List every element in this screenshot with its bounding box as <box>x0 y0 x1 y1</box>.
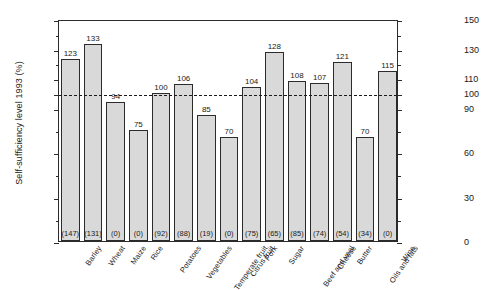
y-axis-label-right: 130 <box>464 45 484 55</box>
bar-group: 128(65) <box>263 21 286 241</box>
bar-group: 94(0) <box>104 21 127 241</box>
bar-group: 123(147) <box>59 21 82 241</box>
category-label: Maize <box>129 244 148 266</box>
bar-secondary-label: (147) <box>59 229 82 238</box>
bar-group: 75(0) <box>127 21 150 241</box>
y-axis-label-right: 90 <box>464 104 484 114</box>
bar-value-label: 121 <box>331 52 354 61</box>
bar-group: 85(19) <box>195 21 218 241</box>
y-axis-label-right: 100 <box>464 89 484 99</box>
y-axis-label-right: 110 <box>464 74 484 84</box>
bar-secondary-label: (0) <box>218 229 241 238</box>
bar-group: 133(131) <box>82 21 105 241</box>
bar-value-label: 128 <box>263 42 286 51</box>
bar-group: 121(54) <box>331 21 354 241</box>
y-axis-title: Self-sufficiency level 1993 (%) <box>14 0 28 26</box>
bar-secondary-label: (19) <box>195 229 218 238</box>
bar <box>106 102 125 241</box>
y-axis-minor-tick-right <box>397 36 401 37</box>
bar-value-label: 107 <box>308 73 331 82</box>
bar <box>356 137 375 241</box>
bar-value-label: 75 <box>127 120 150 129</box>
bar-secondary-label: (75) <box>240 229 263 238</box>
bar-value-label: 123 <box>59 49 82 58</box>
bar <box>129 130 148 241</box>
bar-group: 107(74) <box>308 21 331 241</box>
y-axis-tick-left <box>54 110 59 111</box>
bar-secondary-label: (34) <box>354 229 377 238</box>
bar-value-label: 100 <box>150 83 173 92</box>
bar-group: 106(88) <box>172 21 195 241</box>
bar <box>220 137 239 241</box>
bar-secondary-label: (0) <box>376 229 399 238</box>
y-axis-tick-left <box>54 51 59 52</box>
y-axis-minor-tick-right <box>397 65 401 66</box>
y-axis-tick-left <box>54 21 59 22</box>
bar <box>197 115 216 241</box>
category-label: Potatoes <box>178 244 203 274</box>
plot-area: 123(147)133(131)94(0)75(0)100(92)106(88)… <box>58 20 398 242</box>
bar <box>333 62 352 241</box>
bar-secondary-label: (85) <box>286 229 309 238</box>
category-label: Butter <box>355 244 374 266</box>
y-axis-tick-right <box>397 154 402 155</box>
category-label: Wheat <box>107 244 127 268</box>
y-axis-minor-tick-left <box>56 221 60 222</box>
bar-secondary-label: (88) <box>172 229 195 238</box>
category-label: Barley <box>84 244 104 267</box>
y-axis-title-text: Self-sufficiency level 1993 (%) <box>14 23 24 223</box>
bar-secondary-label: (74) <box>308 229 331 238</box>
reference-line-100 <box>59 95 397 96</box>
y-axis-tick-right <box>397 80 402 81</box>
category-label: Sugar <box>287 244 306 266</box>
bar <box>265 52 284 241</box>
bar <box>174 84 193 241</box>
bar <box>61 59 80 241</box>
y-axis-minor-tick-right <box>397 176 401 177</box>
bar-value-label: 106 <box>172 74 195 83</box>
bar-secondary-label: (131) <box>82 229 105 238</box>
y-axis-label-right: 60 <box>464 148 484 158</box>
y-axis-minor-tick-left <box>56 65 60 66</box>
bar <box>152 93 171 241</box>
y-axis-tick-right <box>397 110 402 111</box>
y-axis-minor-tick-left <box>56 36 60 37</box>
y-axis-tick-right <box>397 21 402 22</box>
category-labels: BarleyWheatMaizeRicePotatoesVegetablesTe… <box>58 244 398 290</box>
y-axis-tick-right <box>397 51 402 52</box>
bars-layer: 123(147)133(131)94(0)75(0)100(92)106(88)… <box>59 21 397 241</box>
bar-secondary-label: (92) <box>150 229 173 238</box>
bar-group: 70(0) <box>218 21 241 241</box>
bar-group: 108(85) <box>286 21 309 241</box>
y-axis-minor-tick-right <box>397 221 401 222</box>
y-axis-tick-right <box>397 95 402 96</box>
y-axis-tick-right <box>397 199 402 200</box>
bar-value-label: 133 <box>82 34 105 43</box>
category-label: Rice <box>149 244 165 262</box>
bar-group: 70(34) <box>354 21 377 241</box>
bar-group: 115(0) <box>376 21 399 241</box>
y-axis-label-right: 0 <box>464 237 484 247</box>
bar-group: 104(75) <box>240 21 263 241</box>
bar-secondary-label: (54) <box>331 229 354 238</box>
bar <box>378 71 397 241</box>
bar-secondary-label: (0) <box>104 229 127 238</box>
y-axis-minor-tick-right <box>397 132 401 133</box>
y-axis-tick-left <box>54 80 59 81</box>
y-axis-tick-left <box>54 199 59 200</box>
y-axis-minor-tick-left <box>56 176 60 177</box>
y-axis-tick-left <box>54 154 59 155</box>
y-axis-label-right: 150 <box>464 15 484 25</box>
bar-value-label: 85 <box>195 105 218 114</box>
bar <box>310 83 329 241</box>
bar-secondary-label: (65) <box>263 229 286 238</box>
bar-value-label: 70 <box>218 127 241 136</box>
y-axis-label-right: 30 <box>464 193 484 203</box>
bar-value-label: 108 <box>286 71 309 80</box>
y-axis-minor-tick-left <box>56 132 60 133</box>
bar-value-label: 94 <box>104 92 127 101</box>
bar-group: 100(92) <box>150 21 173 241</box>
bar-value-label: 70 <box>354 127 377 136</box>
bar <box>288 81 307 241</box>
